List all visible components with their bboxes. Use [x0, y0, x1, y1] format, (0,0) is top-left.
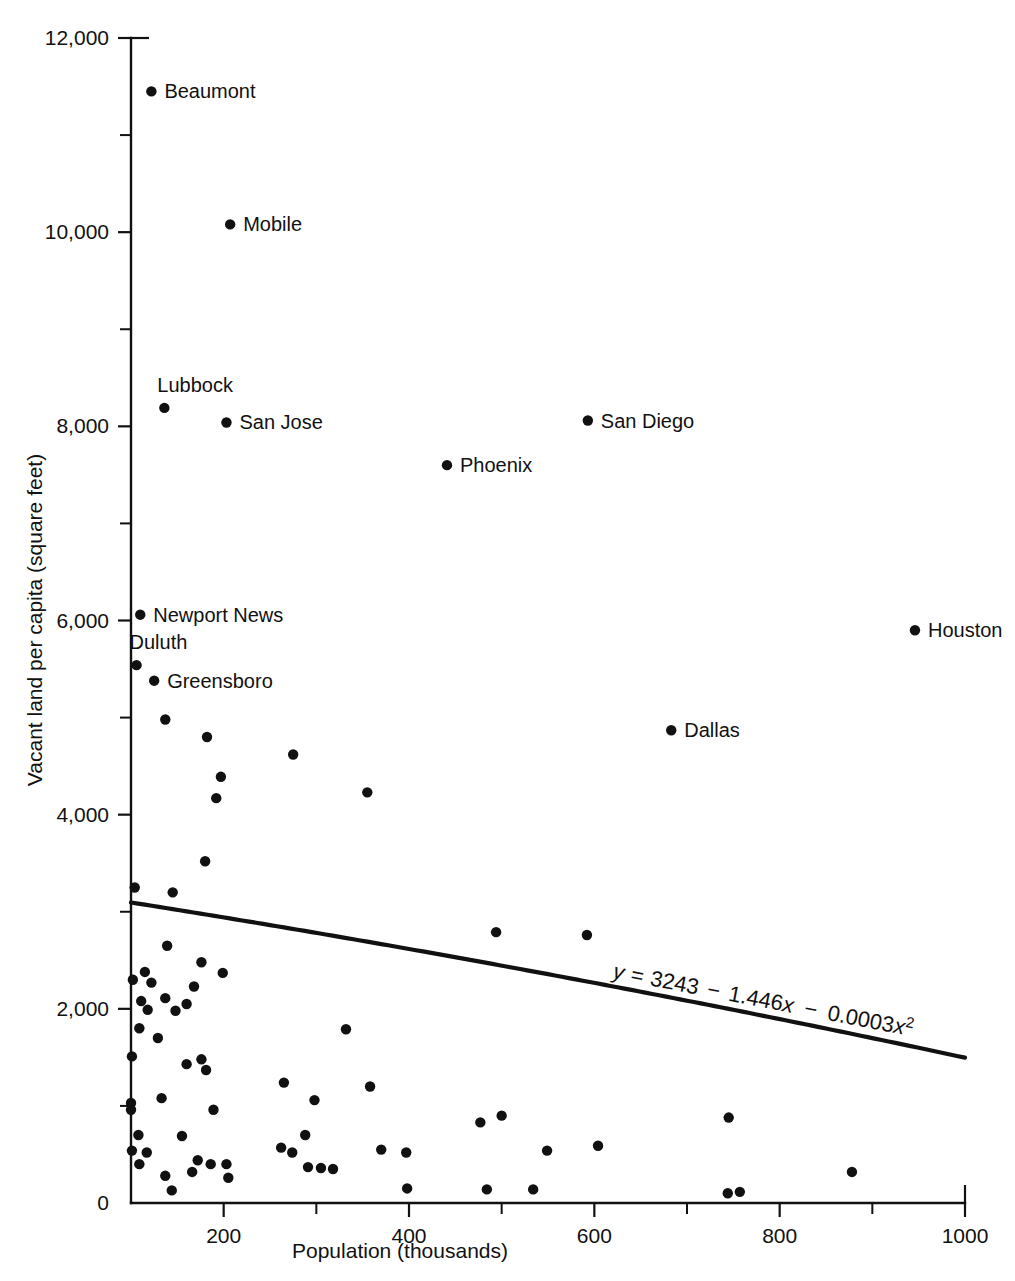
data-point: [160, 1171, 170, 1181]
data-point: [309, 1095, 319, 1105]
x-tick-label: 800: [762, 1224, 797, 1247]
data-point: [134, 1159, 144, 1169]
point-label-mobile: Mobile: [243, 213, 302, 235]
x-tick-label: 200: [206, 1224, 241, 1247]
point-label-phoenix: Phoenix: [460, 454, 532, 476]
y-tick-label: 12,000: [45, 26, 109, 49]
data-point-dallas: [666, 725, 676, 735]
data-point: [160, 714, 170, 724]
labeled-data-points-layer: BeaumontMobileLubbockSan JoseSan DiegoPh…: [130, 80, 1003, 741]
x-tick-label: 1000: [942, 1224, 989, 1247]
data-point: [303, 1162, 313, 1172]
data-point-phoenix: [442, 460, 452, 470]
data-point: [201, 1065, 211, 1075]
data-point: [181, 1059, 191, 1069]
data-point-houston: [910, 625, 920, 635]
data-point: [542, 1145, 552, 1155]
equation-text: y=3243−1.446x−0.0003x2: [609, 956, 916, 1041]
data-point: [187, 1167, 197, 1177]
point-label-san-diego: San Diego: [601, 410, 694, 432]
data-point: [316, 1163, 326, 1173]
data-point-beaumont: [146, 86, 156, 96]
data-point: [205, 1159, 215, 1169]
data-point-san-diego: [583, 415, 593, 425]
data-point: [128, 975, 138, 985]
data-point: [211, 793, 221, 803]
data-point: [402, 1183, 412, 1193]
data-point: [133, 1130, 143, 1140]
data-point: [328, 1164, 338, 1174]
y-tick-label: 4,000: [56, 803, 109, 826]
data-point: [156, 1093, 166, 1103]
data-point: [287, 1147, 297, 1157]
data-point: [153, 1033, 163, 1043]
data-point: [181, 999, 191, 1009]
plot-canvas: 02,0004,0006,0008,00010,00012,000 200400…: [0, 0, 1015, 1281]
point-label-dallas: Dallas: [684, 719, 740, 741]
scatter-chart: 02,0004,0006,0008,00010,00012,000 200400…: [0, 0, 1015, 1281]
y-tick-label: 10,000: [45, 220, 109, 243]
data-point: [221, 1159, 231, 1169]
data-point: [146, 977, 156, 987]
data-point: [279, 1077, 289, 1087]
data-point: [200, 856, 210, 866]
data-point: [193, 1155, 203, 1165]
data-point: [142, 1147, 152, 1157]
data-point: [401, 1147, 411, 1157]
data-point-duluth: [131, 660, 141, 670]
data-point: [126, 1105, 136, 1115]
data-point: [475, 1117, 485, 1127]
y-tick-label: 6,000: [56, 609, 109, 632]
data-point-newport-news: [135, 609, 145, 619]
point-label-beaumont: Beaumont: [164, 80, 256, 102]
data-point: [162, 941, 172, 951]
data-point: [288, 749, 298, 759]
data-points-layer: [126, 714, 857, 1198]
data-point: [276, 1142, 286, 1152]
point-label-houston: Houston: [928, 619, 1003, 641]
data-point-lubbock: [159, 403, 169, 413]
data-point: [167, 1185, 177, 1195]
data-point: [496, 1110, 506, 1120]
data-point: [127, 1051, 137, 1061]
data-point: [196, 957, 206, 967]
point-label-greensboro: Greensboro: [167, 670, 273, 692]
data-point: [189, 981, 199, 991]
x-tick-label: 600: [577, 1224, 612, 1247]
regression-trend-line: [131, 902, 965, 1057]
data-point: [196, 1054, 206, 1064]
data-point: [482, 1184, 492, 1194]
data-point: [202, 732, 212, 742]
data-point: [723, 1188, 733, 1198]
data-point: [136, 996, 146, 1006]
data-point: [582, 930, 592, 940]
point-label-lubbock: Lubbock: [157, 374, 234, 396]
regression-equation-annotation: y=3243−1.446x−0.0003x2: [609, 956, 916, 1041]
data-point: [528, 1184, 538, 1194]
data-point: [362, 787, 372, 797]
data-point: [491, 927, 501, 937]
data-point: [142, 1005, 152, 1015]
point-label-newport-news: Newport News: [153, 604, 283, 626]
point-label-duluth: Duluth: [130, 631, 188, 653]
x-axis-title: Population (thousands): [292, 1239, 508, 1262]
data-point: [365, 1081, 375, 1091]
point-label-san-jose: San Jose: [239, 411, 322, 433]
data-point: [735, 1187, 745, 1197]
data-point: [168, 887, 178, 897]
data-point: [341, 1024, 351, 1034]
data-point: [130, 882, 140, 892]
x-axis: 2004006008001000: [131, 1185, 988, 1247]
y-tick-label: 2,000: [56, 997, 109, 1020]
data-point-san-jose: [221, 417, 231, 427]
data-point: [724, 1112, 734, 1122]
data-point: [847, 1167, 857, 1177]
data-point: [127, 1145, 137, 1155]
y-axis-title: Vacant land per capita (square feet): [23, 454, 46, 786]
data-point: [593, 1141, 603, 1151]
data-point: [140, 967, 150, 977]
data-point-mobile: [225, 219, 235, 229]
y-tick-label: 0: [97, 1191, 109, 1214]
data-point: [223, 1173, 233, 1183]
data-point: [170, 1006, 180, 1016]
